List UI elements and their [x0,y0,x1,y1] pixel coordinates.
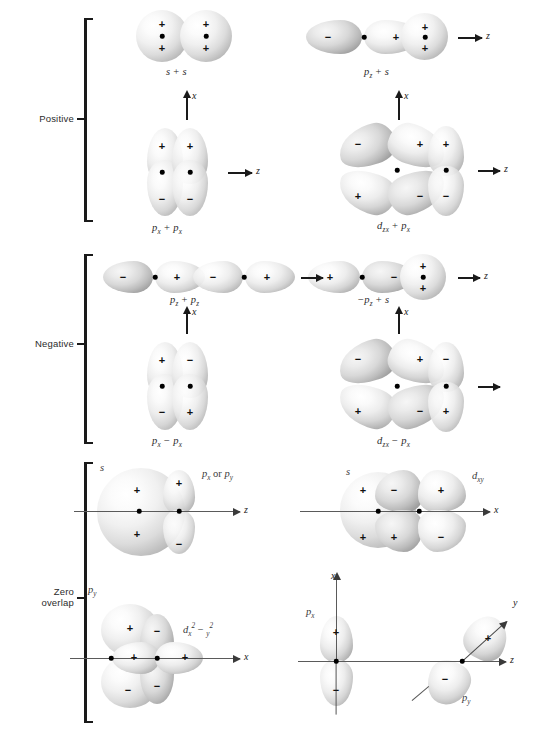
sign-minus: − [125,685,131,696]
sign-plus: + [391,532,397,543]
sign-plus: + [131,652,137,663]
bracket-tick-positive [77,118,84,120]
sign-plus: + [187,141,193,152]
bracket-tick-negative [77,343,84,345]
axis-arrow-z [478,170,500,172]
axis-label-x: x [244,651,248,662]
nucleus-dot [334,659,339,664]
nucleus-dot [376,509,381,514]
nucleus-dot [188,170,193,175]
sign-plus: + [485,633,491,644]
axis-label-x: x [192,306,196,317]
caption-px-plus-px: px + px [152,222,182,236]
orbital-label-py: py [88,584,96,598]
sign-plus: + [355,406,361,417]
sign-plus: + [360,532,366,543]
axis-arrow-x [398,314,400,334]
nucleus-dot [160,170,165,175]
caption-px-minus-px: px − px [152,435,182,449]
nucleus-dot [137,509,142,514]
orbital-label-dxy: dxy [472,470,484,484]
nucleus-dot [153,275,158,280]
sign-plus: + [393,32,399,43]
sign-plus: + [422,43,428,54]
sign-plus: + [333,627,339,638]
orbital-label-dx2-y2: dx2 − y2 [183,622,213,638]
axis-label-z: z [484,270,488,281]
figure-canvas: Positive Negative Zero overlap + + + + s… [0,0,539,739]
nucleus-dot [395,384,400,389]
sign-plus: + [355,191,361,202]
nucleus-dot [444,384,449,389]
orbital-label-s: s [346,466,350,477]
sign-plus: + [176,478,182,489]
sign-plus: + [420,261,426,272]
sign-minus: − [417,406,423,417]
axis-label-x: x [494,504,498,515]
sign-minus: − [391,485,397,496]
axis-label-x: x [192,90,196,101]
nucleus-dot [460,659,465,664]
section-label-zero-line2: overlap [41,597,74,608]
sign-plus: + [360,485,366,496]
nucleus-dot [155,656,160,661]
axis-arrow-z [301,277,323,279]
axis-label-z: z [244,504,248,515]
p-lobe-negative [103,261,153,293]
axis-arrow-x [186,314,188,334]
axis-arrow-unlabeled [478,386,500,388]
nucleus-dot [160,34,165,39]
sign-minus: − [154,681,160,692]
sign-plus: + [443,139,449,150]
axis-line-z [74,511,240,512]
sign-plus: + [203,19,209,30]
p-lobe-positive [172,374,208,430]
nucleus-dot [360,275,365,280]
p-lobe-negative [306,20,362,54]
sign-minus: − [176,539,182,550]
nucleus-dot [204,34,209,39]
sign-minus: − [355,354,361,365]
sign-plus: + [159,355,165,366]
nucleus-dot [423,35,428,40]
axis-arrow-z [458,277,480,279]
nucleus-dot [242,275,247,280]
sign-plus: + [187,407,193,418]
section-label-positive: Positive [14,113,74,124]
orbital-label-px-or-py: px or py [202,468,233,482]
axis-label-z: z [486,30,490,41]
axis-arrow-z [458,37,482,39]
sign-plus: + [420,283,426,294]
sign-plus: + [264,272,270,283]
sign-minus: − [438,532,444,543]
sign-minus: − [443,354,449,365]
axis-segment-y-back [412,686,430,701]
bracket-tick-zero-overlap [77,597,84,599]
axis-label-z: z [504,163,508,174]
section-label-zero-overlap: Zero overlap [10,586,74,608]
axis-arrow-x [398,98,400,120]
sign-plus: + [127,623,133,634]
section-label-zero-line1: Zero [54,586,74,597]
axis-label-x: x [404,306,408,317]
sign-minus: − [442,674,448,685]
p-lobe-negative [193,261,243,293]
sign-plus: + [134,529,140,540]
sign-minus: − [325,32,331,43]
sign-minus: − [417,191,423,202]
axis-label-x: x [404,90,408,101]
sign-minus: − [159,194,165,205]
sign-minus: − [210,272,216,283]
nucleus-dot [177,509,182,514]
axis-label-z: z [510,654,514,665]
caption-dzx-plus-px: dzx + px [377,220,410,234]
sign-minus: − [391,272,397,283]
sign-plus: + [134,485,140,496]
sign-minus: − [355,139,361,150]
bracket-positive [84,18,93,222]
sign-minus: − [333,685,339,696]
p-lobe-negative [172,160,208,216]
sign-plus: + [159,141,165,152]
caption-dzx-minus-px: dzx − px [377,435,410,449]
nucleus-dot [109,656,114,661]
